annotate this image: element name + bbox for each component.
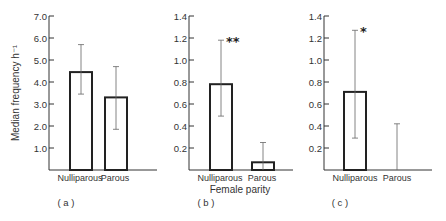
y-tick-label: 4.0	[34, 77, 47, 88]
category-label: Nulliparous	[332, 173, 378, 183]
panel-label: ( b )	[198, 197, 215, 208]
y-tick-label: 0.6	[309, 99, 322, 110]
panel-label: ( a )	[58, 197, 75, 208]
category-label: Parous	[248, 173, 277, 183]
y-tick-label: 5.0	[34, 55, 47, 66]
y-tick-label: 1.2	[309, 33, 322, 44]
chart-panel-b: 0.20.40.60.81.01.21.4**NulliparousParous…	[174, 11, 293, 209]
figure-canvas: 1.02.03.04.05.06.07.0NulliparousParous( …	[0, 0, 446, 221]
y-tick-label: 1.4	[309, 11, 322, 22]
y-tick-label: 1.0	[309, 55, 322, 66]
y-tick-label: 3.0	[34, 99, 47, 110]
y-tick-label: 0.8	[174, 77, 187, 88]
significance-marker: **	[226, 34, 240, 49]
category-label: Parous	[383, 173, 412, 183]
y-tick-label: 2.0	[34, 121, 47, 132]
chart-panel-c: 0.20.40.60.81.01.21.4*NulliparousParous(…	[309, 11, 432, 209]
significance-marker: *	[360, 24, 367, 39]
y-tick-label: 1.2	[174, 33, 187, 44]
chart-panel-a: 1.02.03.04.05.06.07.0NulliparousParous( …	[10, 11, 157, 209]
y-tick-label: 0.4	[309, 121, 322, 132]
y-tick-label: 6.0	[34, 33, 47, 44]
y-tick-label: 0.4	[174, 121, 187, 132]
category-label: Nulliparous	[57, 173, 103, 183]
y-tick-label: 0.6	[174, 99, 187, 110]
y-tick-label: 0.2	[174, 143, 187, 154]
y-tick-label: 7.0	[34, 11, 47, 22]
y-axis-title: Median frequency h⁻¹	[10, 44, 21, 141]
category-label: Nulliparous	[197, 173, 243, 183]
category-label: Parous	[101, 173, 130, 183]
y-tick-label: 1.4	[174, 11, 187, 22]
y-tick-label: 0.2	[309, 143, 322, 154]
x-axis-title: Female parity	[210, 184, 271, 195]
y-tick-label: 1.0	[34, 143, 47, 154]
panel-label: ( c )	[332, 197, 348, 208]
y-tick-label: 0.8	[309, 77, 322, 88]
y-tick-label: 1.0	[174, 55, 187, 66]
